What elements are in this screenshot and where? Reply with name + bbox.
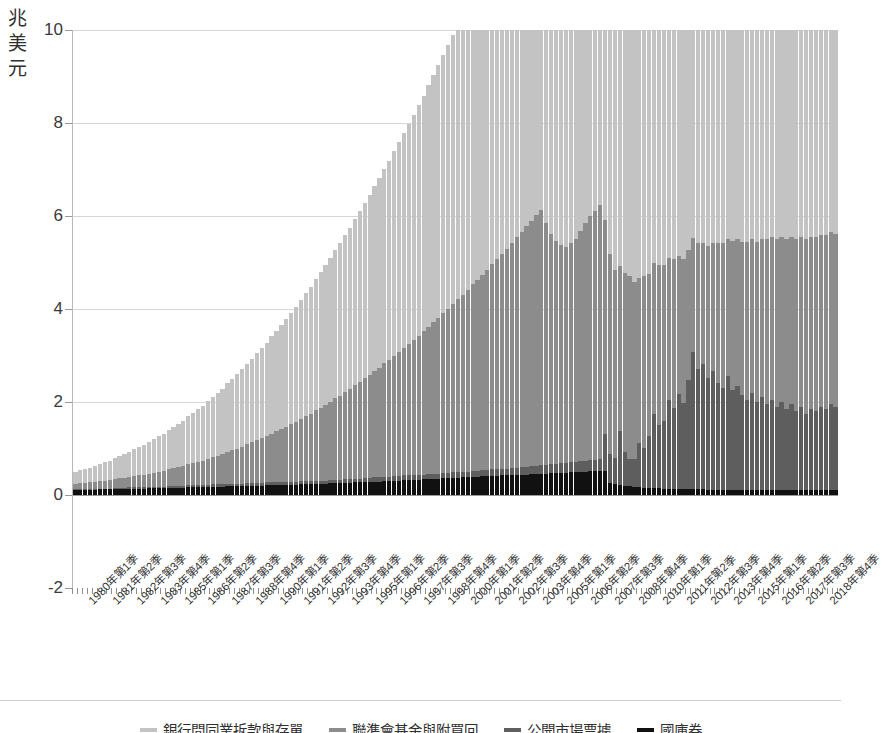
bar-segment — [730, 490, 734, 495]
bar-segment — [98, 489, 102, 495]
bar-column — [500, 30, 504, 495]
bar-segment — [632, 282, 636, 459]
bar-segment — [338, 243, 342, 396]
bar-segment — [667, 30, 671, 258]
bar-segment — [598, 30, 602, 205]
bar-column — [760, 30, 764, 495]
bar-segment — [829, 404, 833, 490]
bar-column — [412, 115, 416, 495]
bar-segment — [333, 483, 337, 495]
bar-segment — [750, 30, 754, 239]
bar-column — [505, 30, 509, 495]
bar-segment — [475, 30, 479, 280]
bar-column — [588, 30, 592, 495]
bar-segment — [157, 488, 161, 495]
bar-column — [353, 219, 357, 495]
bar-column — [397, 142, 401, 495]
bar-segment — [627, 459, 631, 486]
plot-area: -20246810 — [72, 30, 837, 588]
bar-segment — [760, 239, 764, 397]
bar-segment — [809, 30, 813, 237]
bar-segment — [456, 30, 460, 299]
bar-segment — [809, 409, 813, 490]
bar-segment — [113, 489, 117, 495]
bar-segment — [726, 376, 730, 490]
bar-segment — [323, 405, 327, 481]
bar-segment — [608, 454, 612, 483]
bar-segment — [132, 449, 136, 476]
bar-segment — [706, 490, 710, 495]
legend-item[interactable]: 銀行間同業拆款與存單 — [140, 719, 303, 733]
bar-segment — [559, 245, 563, 464]
bar-segment — [534, 474, 538, 495]
bar-column — [814, 30, 818, 495]
bar-segment — [569, 472, 573, 495]
bar-segment — [770, 30, 774, 237]
bar-segment — [529, 30, 533, 221]
bar-segment — [554, 30, 558, 241]
bar-segment — [814, 237, 818, 411]
bar-column — [314, 279, 318, 495]
bar-segment — [412, 115, 416, 340]
bar-segment — [681, 403, 685, 489]
legend-swatch-icon — [329, 728, 346, 732]
bar-segment — [466, 477, 470, 495]
bar-segment — [441, 313, 445, 473]
bar-segment — [490, 30, 494, 264]
bar-segment — [745, 400, 749, 491]
bar-segment — [657, 488, 661, 495]
bar-segment — [245, 486, 249, 495]
bar-segment — [642, 448, 646, 488]
legend-item[interactable]: 公開市場票據 — [504, 719, 611, 733]
bar-segment — [770, 490, 774, 495]
bar-segment — [799, 30, 803, 237]
bar-column — [255, 353, 259, 495]
chart-legend: 銀行間同業拆款與存單聯準會基金與附買回公開市場票據國庫券 — [0, 719, 841, 733]
bar-segment — [510, 468, 514, 475]
bar-segment — [230, 450, 234, 483]
bar-segment — [191, 487, 195, 495]
bar-column — [78, 470, 82, 495]
bar-column — [88, 468, 92, 495]
bar-segment — [578, 461, 582, 472]
bar-segment — [779, 237, 783, 402]
bar-segment — [735, 30, 739, 239]
bar-segment — [480, 275, 484, 471]
bar-segment — [98, 481, 102, 488]
bar-segment — [686, 380, 690, 489]
bar-segment — [824, 235, 828, 409]
bar-segment — [402, 348, 406, 476]
bar-column — [162, 434, 166, 495]
bar-segment — [735, 239, 739, 385]
bar-segment — [436, 65, 440, 317]
legend-item[interactable]: 國庫券 — [637, 719, 702, 733]
bar-segment — [804, 414, 808, 491]
bar-segment — [142, 475, 146, 488]
bar-segment — [196, 487, 200, 495]
bar-column — [667, 30, 671, 495]
bar-segment — [740, 490, 744, 495]
bar-segment — [113, 458, 117, 479]
bar-segment — [804, 490, 808, 495]
bar-segment — [422, 96, 426, 332]
bar-segment — [608, 254, 612, 454]
legend-item[interactable]: 聯準會基金與附買回 — [329, 719, 478, 733]
bar-segment — [632, 459, 636, 487]
bar-column — [799, 30, 803, 495]
bar-segment — [309, 414, 313, 481]
bar-segment — [225, 452, 229, 484]
bar-segment — [407, 344, 411, 476]
bar-segment — [711, 30, 715, 243]
bar-segment — [358, 211, 362, 382]
bar-segment — [789, 237, 793, 404]
bar-segment — [269, 434, 273, 483]
bar-segment — [269, 336, 273, 433]
bar-segment — [387, 481, 391, 495]
bar-column — [569, 30, 573, 495]
bar-segment — [578, 472, 582, 495]
bar-segment — [529, 466, 533, 474]
bar-segment — [652, 414, 656, 488]
bar-segment — [520, 475, 524, 495]
legend-label: 國庫券 — [660, 719, 702, 733]
x-axis-labels: 1980年第1季1981年第2季1982年第3季1983年第4季1985年第1季… — [72, 596, 841, 691]
